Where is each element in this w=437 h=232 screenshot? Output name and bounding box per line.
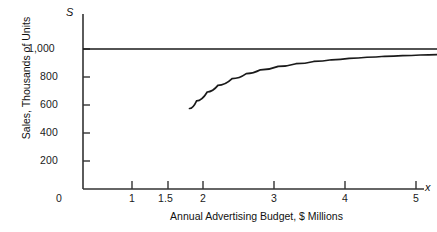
x-tick-label-5: 5 [413,192,419,204]
x-axis-title: Annual Advertising Budget, $ Millions [83,210,430,222]
y-tick-label-600: 600 [40,98,58,110]
x-tick-label-2: 2 [200,192,206,204]
chart-plot-area [0,0,437,232]
y-axis-variable-symbol: S [66,6,73,18]
x-tick-label-4: 4 [342,192,348,204]
sales-response-curve [190,55,437,109]
y-tick-label-400: 400 [40,126,58,138]
y-tick-label-800: 800 [40,70,58,82]
x-tick-label-1: 1 [129,192,135,204]
y-tick-label-200: 200 [40,154,58,166]
y-tick-label-0: 0 [56,192,62,204]
axes-group [83,14,424,189]
y-axis-ticks [83,49,90,161]
y-tick-label-1000: 1,000 [28,42,55,54]
sales-response-chart: 1,000 800 600 400 200 0 1 1.5 2 3 4 5 S … [0,0,437,232]
x-axis-ticks [132,181,416,189]
x-axis-variable-symbol: x [425,181,431,193]
x-tick-label-1-5: 1.5 [158,192,173,204]
y-axis-title: Sales, Thousands of Units [20,0,32,158]
x-tick-label-3: 3 [271,192,277,204]
